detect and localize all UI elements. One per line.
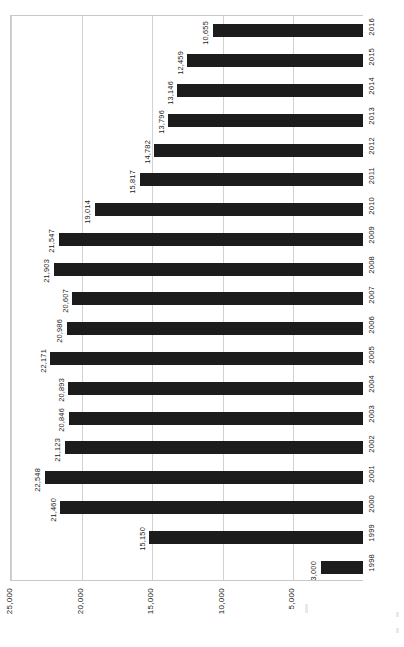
bar-2011 <box>140 173 363 186</box>
bar-value-label-2008: 21,903 <box>43 259 50 283</box>
tick-label-15000: 15,000 <box>147 588 155 614</box>
bar-value-label-2006: 20,986 <box>56 319 63 343</box>
bar-2003 <box>69 412 363 425</box>
bar-row: 22,548 <box>10 463 363 493</box>
bar-value-label-2010: 19,014 <box>84 200 91 224</box>
bar-2001 <box>45 471 363 484</box>
category-label-2016: 2016 <box>368 18 376 36</box>
category-label-2009: 2009 <box>368 226 376 244</box>
bar-2015 <box>187 54 363 67</box>
bar-row: 22,171 <box>10 344 363 374</box>
bar-value-label-2001: 22,548 <box>34 468 41 492</box>
category-label-2010: 2010 <box>368 197 376 215</box>
category-label-2004: 2004 <box>368 375 376 393</box>
bar-2008 <box>54 263 363 276</box>
bar-2014 <box>177 84 363 97</box>
bar-2002 <box>65 441 363 454</box>
bar-row: 13,796 <box>10 105 363 135</box>
bar-row: 21,903 <box>10 254 363 284</box>
bar-row: 15,150 <box>10 522 363 552</box>
bar-row: 21,547 <box>10 225 363 255</box>
scan-artifact <box>305 604 308 613</box>
tick-label-25000: 25,000 <box>6 588 14 614</box>
bar-row: 12,459 <box>10 46 363 76</box>
bar-value-label-2011: 15,817 <box>129 170 136 194</box>
bar-row: 20,986 <box>10 314 363 344</box>
bar-value-label-2004: 20,893 <box>58 378 65 402</box>
bar-row: 13,146 <box>10 76 363 106</box>
category-label-2013: 2013 <box>368 107 376 125</box>
category-label-2014: 2014 <box>368 77 376 95</box>
tick-label-5000: 5,000 <box>288 588 296 610</box>
tick-label-10000: 10,000 <box>218 588 226 614</box>
bar-2000 <box>60 501 363 514</box>
scan-artifact <box>396 612 399 617</box>
bar-1998 <box>321 561 363 574</box>
bar-2007 <box>72 292 363 305</box>
bar-value-label-2016: 10,655 <box>202 21 209 45</box>
chart-page: 3,00015,15021,46022,54821,12320,84620,89… <box>0 0 404 647</box>
bar-row: 21,460 <box>10 493 363 523</box>
category-label-2002: 2002 <box>368 435 376 453</box>
category-label-1999: 1999 <box>368 524 376 542</box>
category-label-2008: 2008 <box>368 256 376 274</box>
category-label-2001: 2001 <box>368 465 376 483</box>
bar-value-label-2007: 20,607 <box>62 289 69 313</box>
category-label-2005: 2005 <box>368 346 376 364</box>
bar-value-label-2003: 20,846 <box>58 408 65 432</box>
bar-2016 <box>213 24 363 37</box>
category-label-2011: 2011 <box>368 167 376 184</box>
bar-2012 <box>154 144 363 157</box>
category-label-2012: 2012 <box>368 137 376 155</box>
bar-2006 <box>67 322 363 335</box>
bar-row: 20,846 <box>10 403 363 433</box>
bar-value-label-2009: 21,547 <box>48 229 55 253</box>
bar-row: 20,607 <box>10 284 363 314</box>
bar-value-label-2000: 21,460 <box>50 498 57 522</box>
bar-value-label-2015: 12,459 <box>177 51 184 75</box>
scan-artifact <box>396 628 399 633</box>
category-label-2007: 2007 <box>368 286 376 304</box>
category-label-2000: 2000 <box>368 495 376 513</box>
bar-value-label-1998: 3,000 <box>310 561 317 581</box>
bar-value-label-2014: 13,146 <box>167 81 174 105</box>
bar-row: 10,655 <box>10 16 363 46</box>
bar-value-label-2005: 22,171 <box>40 349 47 373</box>
plot-area: 3,00015,15021,46022,54821,12320,84620,89… <box>10 15 363 581</box>
category-label-1998: 1998 <box>368 554 376 572</box>
bar-row: 19,014 <box>10 195 363 225</box>
bar-row: 15,817 <box>10 165 363 195</box>
bar-value-label-2002: 21,123 <box>54 438 61 462</box>
bar-2009 <box>59 233 363 246</box>
category-label-2015: 2015 <box>368 48 376 66</box>
bar-row: 14,782 <box>10 135 363 165</box>
bar-row: 20,893 <box>10 373 363 403</box>
bar-2004 <box>68 382 363 395</box>
bar-2010 <box>95 203 363 216</box>
bar-2005 <box>50 352 363 365</box>
bar-value-label-1999: 15,150 <box>139 527 146 551</box>
bar-2013 <box>168 114 363 127</box>
category-label-2003: 2003 <box>368 405 376 423</box>
tick-label-20000: 20,000 <box>77 588 85 614</box>
bar-row: 3,000 <box>10 552 363 582</box>
bar-row: 21,123 <box>10 433 363 463</box>
category-label-2006: 2006 <box>368 316 376 334</box>
bar-value-label-2013: 13,796 <box>158 110 165 134</box>
bar-1999 <box>149 531 363 544</box>
bar-value-label-2012: 14,782 <box>144 140 151 164</box>
